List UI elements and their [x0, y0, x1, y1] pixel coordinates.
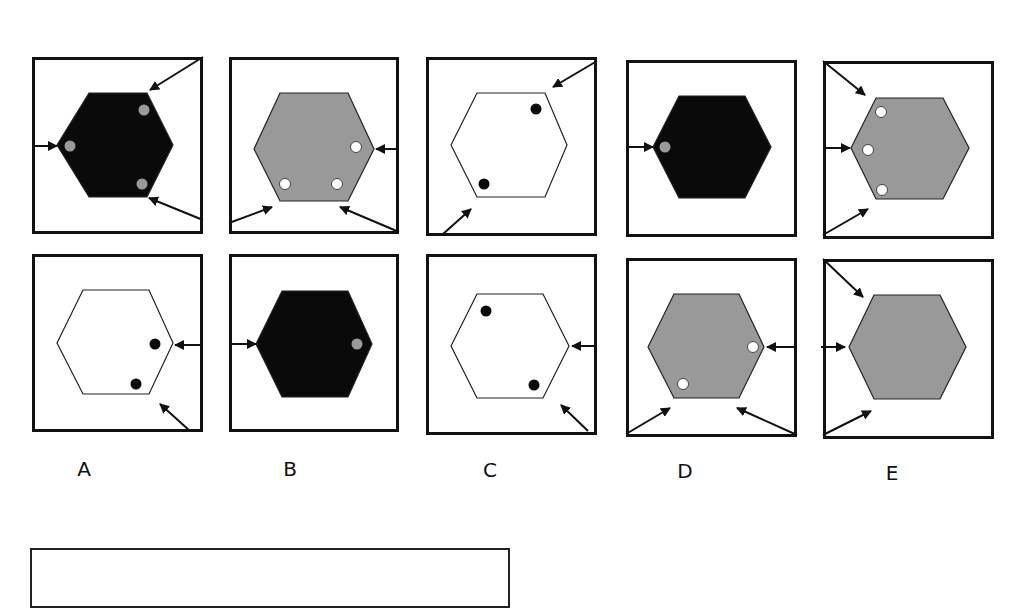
option-panel-top-e[interactable]: [823, 61, 994, 239]
dot-marker: [352, 339, 363, 350]
arrow-icon: [823, 411, 871, 435]
dot-marker: [332, 179, 343, 190]
option-panel-top-a[interactable]: [32, 57, 203, 234]
option-panel-top-c[interactable]: [426, 57, 597, 236]
arrow-icon: [160, 404, 190, 431]
arrow-icon: [823, 209, 868, 235]
arrow-icon: [553, 61, 597, 87]
dot-marker: [137, 179, 148, 190]
arrow-icon: [626, 408, 670, 434]
panel-figure: [32, 254, 203, 432]
arrow-icon: [823, 61, 865, 95]
arrow-icon: [340, 207, 399, 232]
option-panel-top-b[interactable]: [229, 57, 399, 234]
panel-figure: [823, 259, 994, 439]
dot-marker: [876, 107, 887, 118]
dot-marker: [531, 104, 542, 115]
dot-marker: [877, 185, 888, 196]
option-label-a: A: [64, 457, 104, 481]
panel-figure: [626, 60, 797, 237]
hexagon-shape: [451, 294, 569, 398]
panel-figure: [229, 57, 399, 234]
option-panel-bottom-b[interactable]: [229, 254, 399, 432]
hexagon-shape: [648, 294, 764, 398]
dot-marker: [131, 379, 142, 390]
arrow-icon: [561, 405, 588, 431]
option-label-e: E: [872, 461, 912, 485]
arrow-icon: [737, 408, 797, 435]
panel-figure: [229, 254, 399, 432]
dot-marker: [863, 145, 874, 156]
dot-marker: [351, 142, 362, 153]
panel-figure: [823, 61, 994, 239]
hexagon-shape: [849, 295, 966, 399]
dot-marker: [150, 339, 161, 350]
panel-figure: [426, 57, 597, 236]
dot-marker: [139, 105, 150, 116]
arrow-icon: [229, 207, 272, 223]
dot-marker: [678, 379, 689, 390]
dot-marker: [660, 142, 671, 153]
option-panel-bottom-a[interactable]: [32, 254, 203, 432]
option-label-d: D: [665, 459, 705, 483]
panel-figure: [426, 254, 597, 435]
option-panel-bottom-e[interactable]: [823, 259, 994, 439]
arrow-icon: [823, 259, 863, 297]
hexagon-shape: [653, 96, 771, 198]
panel-figure: [32, 57, 203, 234]
option-panel-bottom-d[interactable]: [626, 258, 797, 437]
arrow-icon: [443, 209, 471, 234]
dot-marker: [481, 306, 492, 317]
option-panel-top-d[interactable]: [626, 60, 797, 237]
dot-marker: [529, 380, 540, 391]
dot-marker: [280, 179, 291, 190]
option-panel-bottom-c[interactable]: [426, 254, 597, 435]
option-label-b: B: [270, 457, 310, 481]
dot-marker: [479, 179, 490, 190]
arrow-icon: [149, 198, 203, 220]
arrow-icon: [150, 57, 203, 90]
hexagon-shape: [451, 93, 567, 197]
option-label-c: C: [470, 458, 510, 482]
dot-marker: [65, 141, 76, 152]
panel-figure: [626, 258, 797, 437]
dot-marker: [748, 342, 759, 353]
answer-box[interactable]: [30, 548, 510, 608]
